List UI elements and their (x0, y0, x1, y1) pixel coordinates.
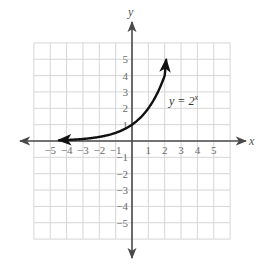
y-tick-label: −1 (116, 151, 128, 163)
x-tick-label: 3 (178, 144, 184, 156)
x-tick-label: −3 (77, 144, 89, 156)
x-tick-labels: −5−4−3−2−112345 (44, 144, 217, 156)
x-tick-label: 5 (211, 144, 217, 156)
x-tick-label: −2 (93, 144, 105, 156)
y-tick-label: 5 (123, 53, 129, 65)
curve-y-equals-2-to-x (58, 59, 166, 140)
equation-exponent: x (193, 93, 198, 102)
y-tick-label: 3 (123, 86, 129, 98)
y-tick-label: −2 (116, 168, 128, 180)
x-axis-label: x (248, 134, 255, 148)
x-tick-label: 2 (162, 144, 168, 156)
x-tick-label: 1 (146, 144, 152, 156)
y-tick-label: −5 (116, 217, 128, 229)
equation-base: y = 2 (168, 94, 194, 108)
y-tick-label: 2 (123, 102, 129, 114)
exponential-graph: −5−4−3−2−112345 −5−4−3−2−112345 y x y = … (0, 0, 263, 264)
x-tick-label: −4 (61, 144, 73, 156)
x-tick-label: 4 (195, 144, 201, 156)
y-axis-label: y (127, 5, 134, 19)
y-tick-label: 4 (123, 70, 129, 82)
y-tick-label: −4 (116, 200, 128, 212)
equation-label: y = 2x (168, 93, 198, 108)
x-tick-label: −5 (44, 144, 56, 156)
y-tick-label: −3 (116, 184, 128, 196)
